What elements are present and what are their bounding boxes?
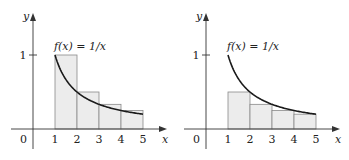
- rectangle: [250, 104, 272, 129]
- origin-label: 0: [20, 133, 27, 146]
- x-tick-label: 2: [74, 133, 81, 146]
- x-axis-arrow-icon: [332, 126, 340, 132]
- y-axis-arrow-icon: [30, 13, 36, 21]
- panel-right: 1123450xyf(x) = 1/x: [184, 10, 342, 149]
- x-tick-label: 2: [247, 133, 254, 146]
- y-tick-label: 1: [20, 49, 27, 62]
- figure: 1123450xyf(x) = 1/x 1123450xyf(x) = 1/x: [0, 0, 349, 160]
- panel-left: 1123450xyf(x) = 1/x: [11, 10, 169, 149]
- x-axis-label: x: [162, 133, 169, 146]
- y-tick-label: 1: [193, 49, 200, 62]
- function-label: f(x) = 1/x: [226, 40, 280, 53]
- x-tick-label: 5: [140, 133, 147, 146]
- x-tick-label: 4: [118, 133, 125, 146]
- origin-label: 0: [193, 133, 200, 146]
- x-tick-label: 3: [96, 133, 103, 146]
- y-axis-label: y: [22, 10, 30, 23]
- rectangle: [272, 111, 294, 130]
- y-axis-label: y: [195, 10, 203, 23]
- rectangle: [228, 92, 250, 129]
- y-axis-arrow-icon: [203, 13, 209, 21]
- x-tick-label: 5: [313, 133, 320, 146]
- function-label: f(x) = 1/x: [53, 40, 107, 53]
- rectangle: [294, 114, 316, 129]
- x-axis-arrow-icon: [159, 126, 167, 132]
- rectangle: [77, 92, 99, 129]
- x-tick-label: 4: [291, 133, 298, 146]
- x-tick-label: 1: [225, 133, 232, 146]
- x-axis-label: x: [335, 133, 342, 146]
- x-tick-label: 3: [269, 133, 276, 146]
- x-tick-label: 1: [52, 133, 59, 146]
